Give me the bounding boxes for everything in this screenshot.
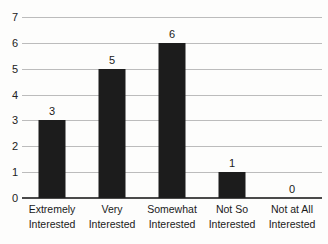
bar-value-label: 6 — [169, 29, 175, 40]
bar-slot: 3 — [22, 17, 82, 198]
bar[interactable] — [39, 120, 66, 198]
bar[interactable] — [219, 172, 246, 198]
bar-slot: 1 — [202, 17, 262, 198]
y-tick-label: 0 — [2, 193, 18, 204]
x-tick-label: Somewhat Interested — [142, 202, 202, 232]
bar-slot: 6 — [142, 17, 202, 198]
x-tick-label-line1: Extremely — [22, 202, 82, 217]
bar-slot: 5 — [82, 17, 142, 198]
bar[interactable] — [99, 69, 126, 198]
x-tick-label-line1: Very — [82, 202, 142, 217]
bar-value-label: 1 — [229, 158, 235, 169]
y-tick-label: 3 — [2, 115, 18, 126]
x-tick-label: Extremely Interested — [22, 202, 82, 232]
x-tick-label-line2: Interested — [262, 217, 322, 232]
y-tick-label: 2 — [2, 141, 18, 152]
y-tick-label: 5 — [2, 63, 18, 74]
y-tick-label: 4 — [2, 89, 18, 100]
x-tick-label-line1: Not at All — [262, 202, 322, 217]
x-tick-label-line2: Interested — [82, 217, 142, 232]
x-tick-label: Very Interested — [82, 202, 142, 232]
bar-value-label: 5 — [109, 55, 115, 66]
bar-value-label: 0 — [289, 184, 295, 195]
x-tick-label: Not So Interested — [202, 202, 262, 232]
y-tick-label: 1 — [2, 167, 18, 178]
x-tick-label-line1: Somewhat — [142, 202, 202, 217]
y-tick-label: 7 — [2, 12, 18, 23]
x-tick-label-line2: Interested — [22, 217, 82, 232]
y-tick-label: 6 — [2, 37, 18, 48]
bar-slot: 0 — [262, 17, 322, 198]
x-tick-label: Not at All Interested — [262, 202, 322, 232]
bar[interactable] — [159, 43, 186, 198]
x-tick-label-line1: Not So — [202, 202, 262, 217]
bar-chart: 7 6 5 4 3 2 1 0 3 5 — [0, 0, 328, 244]
bar-value-label: 3 — [49, 106, 55, 117]
x-tick-label-line2: Interested — [142, 217, 202, 232]
x-tick-label-line2: Interested — [202, 217, 262, 232]
x-axis: Extremely Interested Very Interested Som… — [22, 202, 322, 242]
plot-area: 3 5 6 1 0 — [22, 17, 322, 198]
